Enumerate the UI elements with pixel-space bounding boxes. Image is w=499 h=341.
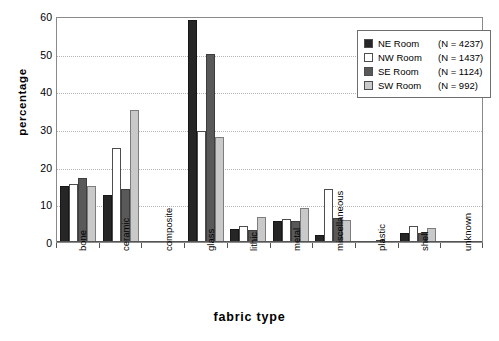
bar-group xyxy=(227,18,270,242)
y-tick-label: 0 xyxy=(18,238,52,248)
bar-group xyxy=(57,18,100,242)
legend-series-name: NW Room xyxy=(378,52,438,63)
legend-item[interactable]: NE Room(N = 4237) xyxy=(364,36,483,50)
legend-series-count: (N = 1124) xyxy=(438,66,482,77)
y-tick-label: 20 xyxy=(18,163,52,173)
legend-swatch-icon xyxy=(364,53,373,62)
x-tick-label: shell xyxy=(419,231,430,251)
bar[interactable] xyxy=(103,195,112,242)
legend-series-count: (N = 1437) xyxy=(438,52,483,63)
bar[interactable] xyxy=(87,186,96,243)
legend-item[interactable]: SW Room(N = 992) xyxy=(364,78,483,92)
bar-chart-figure: percentage 0102030405060 boneceramiccomp… xyxy=(0,0,499,341)
y-axis-tick-labels: 0102030405060 xyxy=(14,17,52,243)
x-tick-label: plastic xyxy=(376,224,387,251)
bar[interactable] xyxy=(206,54,215,242)
x-axis-title: fabric type xyxy=(0,310,499,324)
x-label-cell: shell xyxy=(398,249,441,309)
bar[interactable] xyxy=(188,20,197,242)
legend-series-count: (N = 4237) xyxy=(438,38,483,49)
y-tick-label: 50 xyxy=(18,50,52,60)
x-tick-label: unknown xyxy=(462,213,473,251)
x-label-cell: composite xyxy=(141,249,184,309)
legend: NE Room(N = 4237)NW Room(N = 1437)SE Roo… xyxy=(357,30,491,98)
legend-item[interactable]: SE Room(N = 1124) xyxy=(364,64,483,78)
y-tick-label: 10 xyxy=(18,200,52,210)
legend-item[interactable]: NW Room(N = 1437) xyxy=(364,50,483,64)
legend-series-name: NE Room xyxy=(378,38,438,49)
legend-series-count: (N = 992) xyxy=(438,80,478,91)
bar[interactable] xyxy=(282,219,291,242)
legend-swatch-icon xyxy=(364,81,373,90)
x-tick-label: lithic xyxy=(248,232,259,251)
bar[interactable] xyxy=(197,131,206,242)
legend-series-name: SW Room xyxy=(378,80,438,91)
bar[interactable] xyxy=(273,221,282,242)
x-label-cell: lithic xyxy=(227,249,270,309)
x-label-cell: metal xyxy=(270,249,313,309)
y-tick-label: 30 xyxy=(18,125,52,135)
bar[interactable] xyxy=(409,226,418,242)
x-tick-label: glass xyxy=(205,229,216,251)
bar[interactable] xyxy=(215,137,224,242)
x-label-cell: glass xyxy=(184,249,227,309)
x-label-cell: miscellaneous xyxy=(312,249,355,309)
bar-group xyxy=(100,18,143,242)
x-label-cell: plastic xyxy=(355,249,398,309)
y-tick-label: 40 xyxy=(18,87,52,97)
x-label-cell: ceramic xyxy=(99,249,142,309)
legend-series-name: SE Room xyxy=(378,66,438,77)
x-label-cell: unknown xyxy=(440,249,483,309)
bar[interactable] xyxy=(60,186,69,243)
x-tick-label: miscellaneous xyxy=(334,191,345,251)
bar-group xyxy=(185,18,228,242)
x-tick-label: metal xyxy=(291,228,302,251)
x-tick-label: bone xyxy=(77,230,88,251)
x-tick-label: composite xyxy=(163,208,174,251)
legend-swatch-icon xyxy=(364,67,373,76)
x-tick-label: ceramic xyxy=(120,218,131,251)
bar[interactable] xyxy=(130,110,139,242)
bar-group xyxy=(270,18,313,242)
legend-swatch-icon xyxy=(364,39,373,48)
x-axis-tick-labels: boneceramiccompositeglasslithicmetalmisc… xyxy=(56,249,483,309)
bar[interactable] xyxy=(324,189,333,242)
bar[interactable] xyxy=(239,226,248,242)
y-tick-label: 60 xyxy=(18,12,52,22)
x-label-cell: bone xyxy=(56,249,99,309)
